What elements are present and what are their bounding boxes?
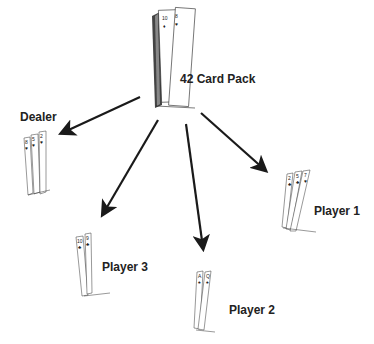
player-3-label: Player 3 bbox=[102, 260, 148, 274]
svg-text:♥: ♥ bbox=[304, 178, 307, 184]
arrow-to-player-2 bbox=[186, 124, 203, 248]
svg-text:♥: ♥ bbox=[40, 139, 43, 145]
svg-text:♦: ♦ bbox=[163, 23, 166, 29]
arrow-to-player-1 bbox=[201, 113, 265, 170]
svg-text:10: 10 bbox=[162, 15, 168, 21]
pack-label: 42 Card Pack bbox=[180, 72, 255, 86]
svg-text:♥: ♥ bbox=[25, 145, 28, 151]
svg-text:♥: ♥ bbox=[175, 21, 178, 27]
svg-text:♥: ♥ bbox=[32, 142, 35, 148]
dealer-hand bbox=[24, 131, 50, 195]
svg-text:♠: ♠ bbox=[206, 279, 209, 285]
arrow-to-dealer bbox=[62, 97, 140, 133]
player-2-label: Player 2 bbox=[229, 303, 275, 317]
arrow-to-player-3 bbox=[103, 120, 158, 214]
svg-text:♠: ♠ bbox=[198, 279, 201, 285]
dealing-diagram: 10 ♦ 8 ♥ 8♥ 5♥ 2♥ 2♣ 5♣ 7♥ 10♣ 9♣ bbox=[0, 0, 374, 344]
card-pack: 10 ♦ 8 ♥ bbox=[152, 7, 195, 108]
svg-text:8: 8 bbox=[175, 13, 178, 19]
dealer-label: Dealer bbox=[20, 110, 57, 124]
player-1-label: Player 1 bbox=[314, 204, 360, 218]
